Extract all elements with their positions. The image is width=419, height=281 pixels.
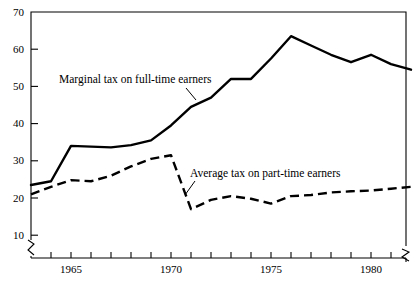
series-label-marginal-tax: Marginal tax on full-time earners [59,74,211,86]
data-series-group [31,36,411,209]
annotation-leader-line [186,88,196,100]
series-label-average-tax: Average tax on part-time earners [190,168,341,180]
y-tick-label: 30 [2,155,24,166]
y-tick-label: 60 [2,44,24,55]
annotation-leader-line [185,181,195,195]
y-tick-label: 40 [2,118,24,129]
x-axis-ticks [51,252,391,258]
series-line-average-tax [31,155,411,209]
x-tick-label: 1970 [148,264,194,275]
y-tick-label: 20 [2,193,24,204]
y-axis-ticks [31,49,38,235]
y-tick-label: 10 [2,230,24,241]
chart-container: 10203040506070 1965197019751980 Marginal… [0,0,419,281]
x-tick-label: 1965 [48,264,94,275]
x-tick-label: 1980 [348,264,394,275]
x-tick-label: 1975 [248,264,294,275]
plot-frame [28,12,409,262]
series-line-marginal-tax [31,36,411,185]
chart-plot-area [0,0,419,281]
y-tick-label: 70 [2,7,24,18]
y-tick-label: 50 [2,81,24,92]
